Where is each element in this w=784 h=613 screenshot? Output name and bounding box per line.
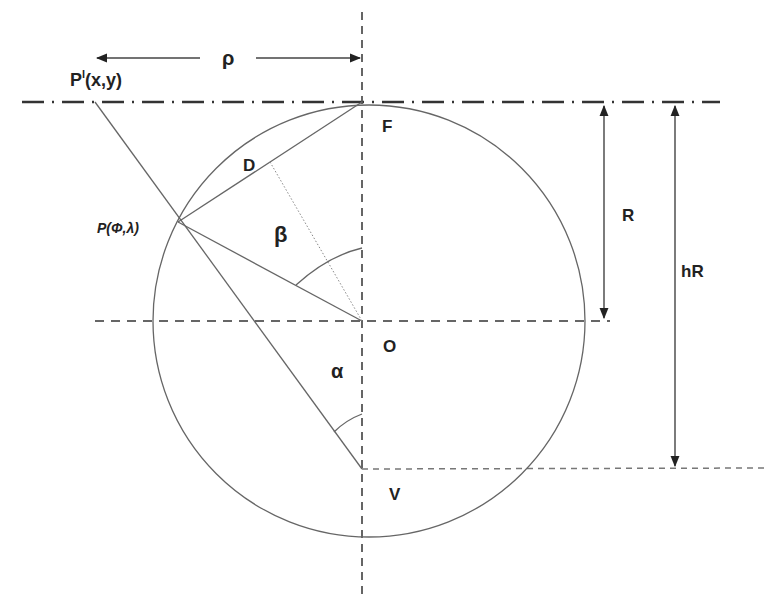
beta-label: β	[274, 222, 287, 247]
p-prime-letter: P	[70, 70, 82, 90]
radius-po	[178, 222, 362, 321]
v-label: V	[389, 485, 401, 504]
alpha-label: α	[331, 360, 344, 382]
angle-beta-arc	[296, 248, 362, 285]
r-label: R	[622, 206, 634, 225]
p-label: P(Φ,λ)	[97, 220, 139, 236]
rho-label: ρ	[222, 47, 234, 69]
d-label: D	[243, 156, 255, 175]
v-level-line	[362, 468, 765, 469]
p-prime-label: Pl(x,y)	[70, 68, 122, 90]
projection-diagram: ρ Pl(x,y) F D P(Φ,λ) β O α V R hR	[0, 0, 784, 613]
angle-alpha-arc	[334, 414, 362, 432]
hr-label: hR	[681, 262, 704, 281]
p-prime-coords: (x,y)	[85, 70, 122, 90]
o-label: O	[383, 337, 396, 356]
f-label: F	[382, 117, 392, 136]
